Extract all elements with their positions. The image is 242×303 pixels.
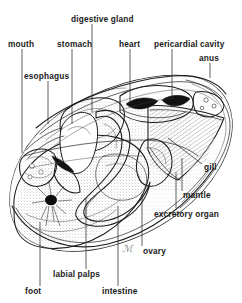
label-heart: heart (119, 39, 140, 49)
label-gill: gill (204, 162, 217, 172)
clam-anatomy-figure: digestive gland mouth stomach heart peri… (0, 0, 242, 303)
label-digestive-gland: digestive gland (71, 14, 134, 24)
label-mouth: mouth (8, 39, 34, 49)
label-esophagus: esophagus (24, 71, 69, 81)
label-pericardial-cavity: pericardial cavity (154, 39, 225, 49)
label-stomach: stomach (57, 39, 92, 49)
label-anus: anus (199, 53, 219, 63)
anatomy-illustration: digestive gland mouth stomach heart peri… (0, 0, 242, 303)
label-ovary: ovary (143, 246, 166, 256)
label-intestine: intestine (102, 286, 138, 296)
artist-signature-mark: ℳ (122, 243, 134, 254)
label-excretory-organ: excretory organ (154, 209, 219, 219)
label-foot: foot (25, 286, 41, 296)
label-mantle: mantle (183, 190, 211, 200)
label-labial-palps: labial palps (53, 269, 100, 279)
